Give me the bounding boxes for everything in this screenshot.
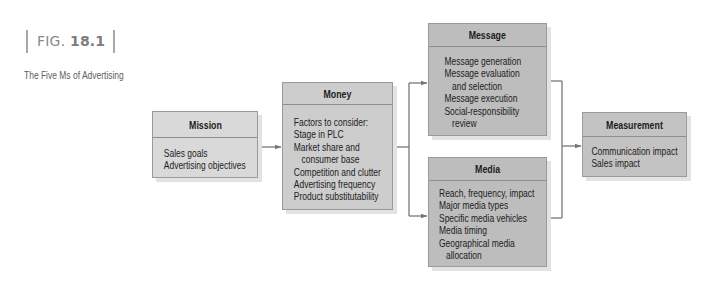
figure-label-prefix: FIG. (37, 33, 65, 49)
media-box: Media Reach, frequency, impact Major med… (428, 157, 547, 267)
media-item-continued: allocation (439, 249, 556, 261)
message-title: Message (469, 24, 506, 47)
message-item: Message execution (444, 92, 561, 104)
figure-title: The Five Ms of Advertising (24, 69, 124, 81)
figure-number: 18.1 (70, 33, 105, 49)
measurement-box: Measurement Communication impact Sales i… (582, 112, 687, 177)
money-item: Factors to consider: (294, 116, 403, 128)
money-item: Market share and (294, 141, 403, 153)
message-item: Message generation (444, 55, 561, 67)
message-item-continued: and selection (444, 80, 561, 92)
message-header: Message (429, 24, 546, 47)
mission-title: Mission (189, 112, 222, 138)
media-item: Media timing (439, 224, 556, 236)
media-title: Media (475, 158, 500, 181)
money-box: Money Factors to consider: Stage in PLC … (282, 82, 393, 210)
media-item: Major media types (439, 199, 556, 211)
money-item: Stage in PLC (294, 128, 403, 140)
money-item: Advertising frequency (294, 178, 403, 190)
measurement-item: Communication impact (591, 145, 694, 157)
media-item: Specific media vehicles (439, 212, 556, 224)
message-item: Social-responsibility (444, 105, 561, 117)
media-item: Geographical media (439, 237, 556, 249)
money-item-continued: consumer base (294, 153, 403, 165)
media-body: Reach, frequency, impact Major media typ… (429, 181, 556, 261)
media-header: Media (429, 158, 546, 181)
money-body: Factors to consider: Stage in PLC Market… (283, 105, 403, 203)
measurement-item: Sales impact (591, 157, 694, 169)
measurement-header: Measurement (583, 113, 686, 137)
money-item: Competition and clutter (294, 166, 403, 178)
measurement-title: Measurement (606, 113, 663, 137)
message-body: Message generation Message evaluation an… (429, 47, 562, 129)
message-item-continued: review (444, 117, 561, 129)
money-header: Money (283, 83, 392, 105)
media-item: Reach, frequency, impact (439, 187, 556, 199)
mission-header: Mission (153, 112, 257, 138)
mission-item: Sales goals (164, 147, 268, 159)
figure-label: FIG. 18.1 (26, 30, 115, 53)
message-item: Message evaluation (444, 67, 561, 79)
money-title: Money (324, 83, 352, 105)
message-box: Message Message generation Message evalu… (428, 23, 547, 136)
mission-body: Sales goals Advertising objectives (153, 138, 268, 172)
mission-item: Advertising objectives (164, 159, 268, 171)
mission-box: Mission Sales goals Advertising objectiv… (152, 111, 258, 178)
money-item: Product substitutability (294, 190, 403, 202)
measurement-body: Communication impact Sales impact (583, 137, 695, 170)
